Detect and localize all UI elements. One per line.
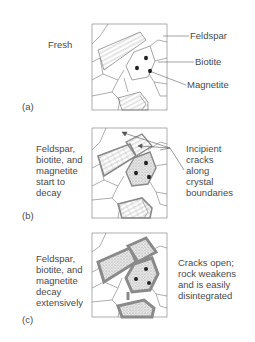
panel-a-rock bbox=[92, 24, 167, 110]
panel-b-rock bbox=[92, 128, 167, 218]
panel-c-rock bbox=[92, 233, 167, 317]
weathering-diagram bbox=[0, 0, 255, 342]
